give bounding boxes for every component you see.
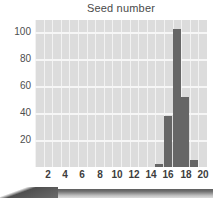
vertical-gridline xyxy=(69,20,70,167)
vertical-gridline xyxy=(155,20,156,167)
bar xyxy=(155,164,163,167)
plot-area xyxy=(35,20,207,167)
y-tick-label: 20 xyxy=(3,135,31,145)
horizontal-gridline xyxy=(35,32,207,34)
y-tick-label: 100 xyxy=(3,27,31,37)
x-tick-label: 6 xyxy=(72,169,92,181)
horizontal-gridline xyxy=(35,59,207,61)
vertical-gridline xyxy=(147,20,148,167)
vertical-gridline xyxy=(95,20,96,167)
vertical-gridline xyxy=(138,20,139,167)
bar xyxy=(164,116,172,167)
x-axis: 2468101214161820 xyxy=(35,169,207,183)
bar xyxy=(173,29,181,167)
vertical-gridline xyxy=(61,20,62,167)
y-tick-label: 40 xyxy=(3,108,31,118)
vertical-gridline xyxy=(190,20,191,167)
page-edge-wedge xyxy=(0,187,58,198)
vertical-gridline xyxy=(198,20,199,167)
vertical-gridline xyxy=(104,20,105,167)
vertical-gridline xyxy=(121,20,122,167)
vertical-gridline xyxy=(130,20,131,167)
y-tick-label: 60 xyxy=(3,81,31,91)
vertical-gridline xyxy=(52,20,53,167)
vertical-gridline xyxy=(87,20,88,167)
y-axis: 20406080100 xyxy=(0,20,31,167)
bar xyxy=(181,97,189,167)
vertical-gridline xyxy=(112,20,113,167)
x-tick-label: 16 xyxy=(158,169,178,181)
chart-title: Seed number xyxy=(35,2,207,14)
y-tick-label: 80 xyxy=(3,54,31,64)
chart-screenshot: Seed number 20406080100 2468101214161820 xyxy=(0,0,213,198)
vertical-gridline xyxy=(78,20,79,167)
vertical-gridline xyxy=(44,20,45,167)
vertical-gridline xyxy=(35,20,36,167)
x-tick-label: 20 xyxy=(193,169,213,181)
bar xyxy=(190,160,198,167)
page-edge-band xyxy=(0,187,213,198)
horizontal-gridline xyxy=(35,86,207,88)
